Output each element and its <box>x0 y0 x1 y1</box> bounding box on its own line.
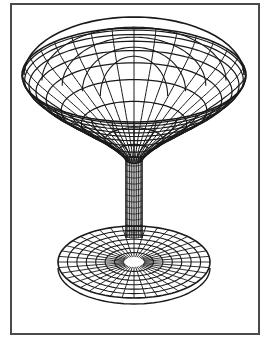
goblet-bowl <box>22 17 246 163</box>
goblet-wireframe <box>0 0 267 340</box>
